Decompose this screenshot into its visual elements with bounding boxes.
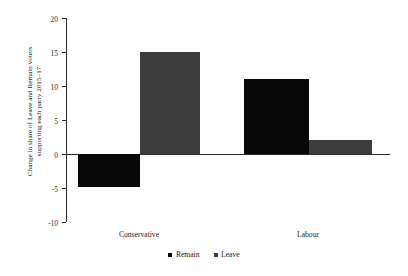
y-tick-label: 15: [51, 48, 58, 57]
bar-labour-leave: [309, 140, 372, 154]
bar-labour-remain: [244, 79, 309, 154]
legend-swatch-icon: [214, 253, 218, 257]
y-tick-label: 10: [51, 82, 58, 91]
y-axis-title-line-2: supporting each party 2015–17: [35, 6, 44, 216]
y-tick-mark: [62, 188, 66, 189]
y-tick-mark: [62, 154, 66, 155]
bar-conservative-leave: [140, 52, 200, 154]
legend-item-remain: Remain: [168, 250, 199, 259]
legend-item-leave: Leave: [214, 250, 240, 259]
plot-area: 20 15 10 5 0 -5 -10: [66, 18, 390, 222]
y-tick-label: 20: [51, 14, 58, 23]
legend-label: Remain: [176, 250, 200, 259]
legend-label: Leave: [221, 250, 240, 259]
bar-chart: Change in share of Leave and Remain vote…: [0, 0, 408, 276]
y-tick-20: 20: [62, 18, 66, 19]
y-tick-label: -5: [52, 184, 58, 193]
y-tick-mark: [62, 86, 66, 87]
chart-legend: Remain Leave: [0, 250, 408, 259]
y-tick-label: 5: [54, 116, 58, 125]
y-tick-mark: [62, 120, 66, 121]
legend-swatch-icon: [168, 253, 172, 257]
y-tick-minus-5: -5: [62, 188, 66, 189]
y-axis-line: [66, 18, 67, 222]
x-category-label-labour: Labour: [297, 230, 319, 239]
y-tick-15: 15: [62, 52, 66, 53]
y-tick-label: -10: [48, 218, 58, 227]
y-tick-mark: [62, 52, 66, 53]
y-tick-10: 10: [62, 86, 66, 87]
y-tick-0: 0: [62, 154, 66, 155]
y-tick-mark: [62, 222, 66, 223]
y-axis-title-line-1: Change in share of Leave and Remain vote…: [26, 6, 35, 216]
y-axis-title: Change in share of Leave and Remain vote…: [26, 6, 45, 216]
y-tick-minus-10: -10: [62, 222, 66, 223]
y-tick-mark: [62, 18, 66, 19]
bar-conservative-remain: [78, 154, 140, 187]
y-tick-5: 5: [62, 120, 66, 121]
y-tick-label: 0: [54, 150, 58, 159]
x-category-label-conservative: Conservative: [119, 230, 159, 239]
